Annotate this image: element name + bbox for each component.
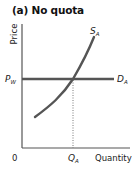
x-axis-label: Quantity xyxy=(95,153,132,163)
world-price-label: PW xyxy=(5,74,16,85)
origin-label: 0 xyxy=(12,153,17,163)
supply-curve-SA xyxy=(35,37,94,117)
quantity-tick-label: QA xyxy=(68,153,79,164)
y-axis-label: Price xyxy=(9,24,19,45)
chart-canvas: Price SA DA PW 0 QA Quantity xyxy=(0,0,135,169)
demand-label: DA xyxy=(117,74,128,85)
supply-label: SA xyxy=(90,26,100,37)
